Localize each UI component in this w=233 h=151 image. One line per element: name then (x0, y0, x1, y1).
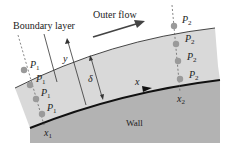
outer-flow-arrow (93, 24, 136, 37)
delta-label: δ (88, 74, 93, 84)
point-p2-2 (173, 41, 179, 47)
p2-label-4: P2 (189, 70, 199, 82)
boundary-layer-label: Boundary layer (13, 21, 75, 31)
x-label: x (135, 77, 139, 87)
point-p1-3 (33, 96, 39, 102)
outer-flow-arrow-head (134, 20, 145, 28)
p2-label-1: P2 (182, 15, 192, 27)
x1-label: x1 (44, 128, 52, 140)
x2-label: x2 (177, 94, 185, 106)
point-p1-2 (27, 82, 33, 88)
point-p2-1 (171, 23, 177, 29)
y-axis-head (65, 38, 70, 44)
boundary-layer-diagram: Boundary layer Outer flow Wall y x δ x1 … (0, 0, 233, 151)
point-p2-3 (175, 58, 181, 64)
y-label: y (63, 54, 67, 64)
p1-label-2: P1 (36, 74, 46, 86)
p2-label-2: P2 (185, 34, 195, 46)
p1-label-4: P1 (47, 103, 57, 115)
p1-label-3: P1 (41, 88, 51, 100)
point-p1-1 (21, 67, 27, 73)
point-p2-4 (177, 76, 183, 82)
wall-label: Wall (126, 119, 143, 128)
p1-label-1: P1 (30, 60, 40, 72)
outer-flow-label: Outer flow (93, 10, 137, 20)
point-p1-4 (39, 111, 45, 117)
p2-label-3: P2 (187, 52, 197, 64)
